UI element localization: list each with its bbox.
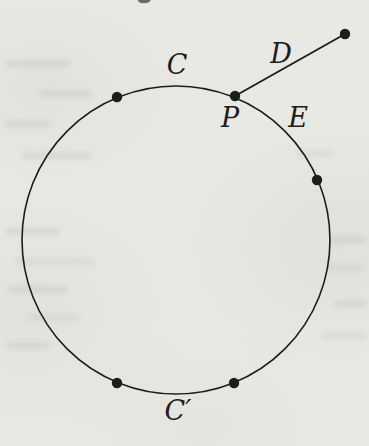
label-C-prime: C′ [165,395,192,426]
circle-curve [22,86,330,394]
point-on-arc-lower-left [112,378,122,388]
label-C: C [167,49,188,80]
label-E: E [287,102,308,133]
label-P: P [220,102,240,133]
point-on-arc-right [312,175,322,185]
point-P [230,91,240,101]
point-on-arc-upper-left [112,92,122,102]
geometry-figure: CDPEC′ [0,0,369,446]
cropped-text-remnant-mark [138,0,152,3]
point-segment-end [340,29,350,39]
scanned-page: CDPEC′ [0,0,369,446]
label-D: D [269,38,292,69]
point-on-arc-lower-right [229,378,239,388]
